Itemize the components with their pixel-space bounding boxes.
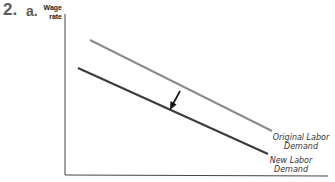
original-demand-label-line1: Original Labor bbox=[268, 133, 334, 142]
new-demand-label: New Labor Demand bbox=[266, 156, 316, 174]
shift-arrow-icon bbox=[170, 91, 180, 110]
original-demand-label: Original Labor Demand bbox=[268, 133, 334, 151]
new-demand-label-line1: New Labor bbox=[266, 156, 316, 165]
x-axis bbox=[65, 175, 328, 176]
original-demand-label-line2: Demand bbox=[268, 142, 334, 151]
chart-canvas bbox=[0, 0, 335, 182]
new-demand-label-line2: Demand bbox=[266, 165, 316, 174]
